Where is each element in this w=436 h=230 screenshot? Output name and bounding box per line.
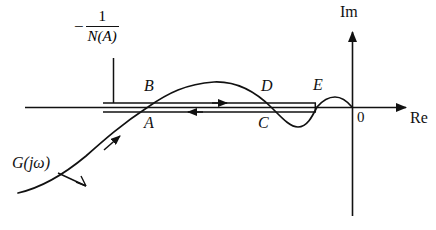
g-jw-leader-arrowhead — [76, 176, 86, 186]
nyquist-describing-function-figure: − 1 N(A) B A D C E Im Re 0 G(jω) — [0, 0, 436, 230]
real-axis-label: Re — [410, 110, 428, 126]
imaginary-axis-label: Im — [340, 4, 358, 20]
point-label-a: A — [144, 115, 154, 131]
point-label-d: D — [261, 78, 273, 94]
point-label-e: E — [313, 77, 323, 93]
g-jw-label: G(jω) — [12, 155, 50, 171]
origin-label: 0 — [357, 110, 365, 125]
describing-function-denominator: N(A) — [86, 27, 119, 45]
describing-function-label: − 1 N(A) — [74, 8, 119, 45]
point-label-b: B — [144, 78, 154, 94]
figure-canvas — [0, 0, 436, 230]
point-label-c: C — [258, 115, 269, 131]
g-jw-nyquist-curve — [18, 82, 352, 193]
describing-function-numerator: 1 — [94, 8, 110, 26]
describing-function-fraction: 1 N(A) — [86, 8, 119, 45]
describing-function-minus-sign: − — [74, 17, 84, 37]
